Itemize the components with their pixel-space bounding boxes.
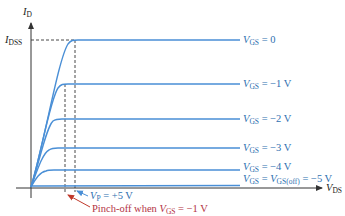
curve-label-vgs-minus2: VGS = −2 V: [243, 113, 292, 126]
y-axis-label: ID: [22, 6, 33, 19]
curve-label-vgs-off: VGS = VGS(off) = −5 V: [243, 173, 333, 186]
curves-group: [31, 40, 240, 187]
pinchoff-label: Pinch-off when VGS = −1 V: [92, 203, 208, 216]
curve-vgs-minus3: [31, 148, 240, 187]
pinchoff-arrow: [68, 195, 90, 207]
curve-vgs-minus2: [31, 119, 240, 187]
vp-arrow: [77, 191, 88, 196]
curve-label-vgs-0: VGS = 0: [243, 34, 275, 47]
curve-label-vgs-minus3: VGS = −3 V: [243, 142, 292, 155]
vp-label: VP = +5 V: [90, 190, 133, 203]
curve-vgs-minus5: [31, 186, 240, 187]
jfet-characteristic-diagram: ID IDSS VDS VGS = 0 VGS = −1 V VGS = −2 …: [0, 0, 345, 216]
idss-label: IDSS: [4, 34, 22, 47]
curve-vgs-minus4: [31, 170, 240, 187]
curve-label-vgs-minus1: VGS = −1 V: [243, 78, 292, 91]
curve-vgs-0: [31, 40, 240, 187]
curve-vgs-minus1: [31, 84, 240, 187]
